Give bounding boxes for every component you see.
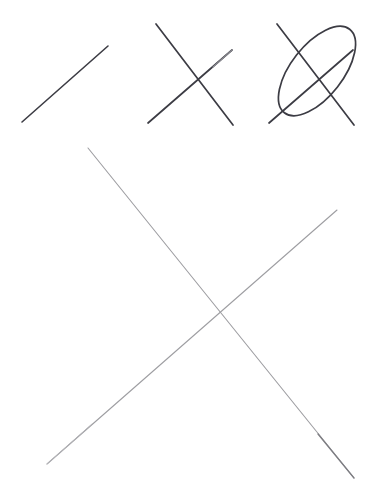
figure-cross-x-mark — [148, 24, 233, 125]
sketch-drawing-surface — [0, 0, 378, 491]
figure-cross-with-ellipse — [264, 13, 370, 129]
ellipse-stroke — [264, 13, 370, 129]
figure-single-diagonal-line — [22, 46, 108, 122]
large-cross-ascending-fade-tail — [47, 424, 92, 464]
diagonal-stroke — [22, 46, 108, 122]
figure-large-cross-x-mark — [47, 148, 354, 478]
cross-x-ascending-tail-fade — [213, 50, 232, 67]
large-cross-descending-dark-tail — [318, 434, 354, 478]
descending-stroke — [277, 24, 354, 125]
sketch-canvas — [0, 0, 378, 491]
ascending-stroke — [269, 50, 353, 123]
descending-stroke — [156, 24, 233, 125]
descending-stroke — [88, 148, 354, 478]
